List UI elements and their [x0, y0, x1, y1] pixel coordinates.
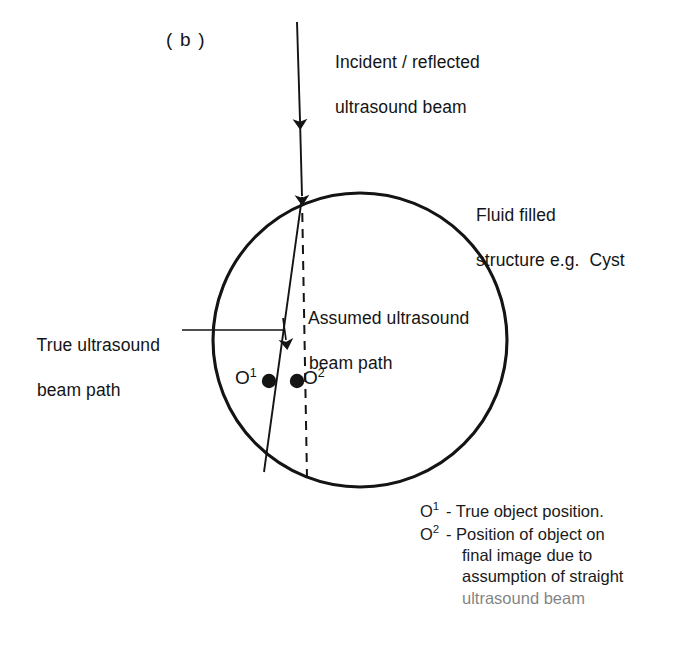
legend-item-o1: O1- True object position. — [420, 499, 623, 522]
legend-item-o2-key-base: O — [420, 524, 433, 542]
label-incident-beam: Incident / reflected ultrasound beam — [325, 29, 480, 119]
label-fluid-structure-line1: Fluid filled — [476, 205, 556, 225]
legend-item-o2-text: - Position of object on — [446, 524, 605, 542]
object-apparent-position-label: O2 — [303, 366, 325, 389]
label-fluid-structure: Fluid filled structure e.g. Cyst — [466, 182, 625, 272]
label-true-beam-path-line2: beam path — [37, 380, 121, 400]
legend-item-o2-continuation-line3: ultrasound beam — [420, 588, 623, 609]
label-assumed-beam-path-line1: Assumed ultrasound — [308, 308, 469, 328]
object-true-position-label-base: O — [235, 367, 250, 388]
panel-label: ( b ) — [166, 28, 206, 52]
legend-item-o2-key: O2 — [420, 522, 446, 545]
label-assumed-beam-path: Assumed ultrasound beam path — [299, 285, 469, 375]
label-true-beam-path-line1: True ultrasound — [37, 335, 160, 355]
true-beam-path-line — [264, 197, 302, 472]
legend-item-o2-key-superscript: 2 — [433, 523, 439, 535]
object-apparent-position-label-base: O — [303, 367, 318, 388]
legend-item-o2: O2- Position of object on — [420, 522, 623, 545]
legend: O1- True object position. O2- Position o… — [420, 499, 623, 609]
object-apparent-position-label-superscript: 2 — [318, 366, 325, 380]
legend-item-o2-continuation-line1: final image due to — [420, 545, 623, 566]
label-fluid-structure-line2: structure e.g. Cyst — [476, 250, 625, 270]
object-true-position-label-superscript: 1 — [250, 366, 257, 380]
object-true-position-dot — [262, 374, 276, 388]
label-true-beam-path: True ultrasound beam path — [27, 312, 160, 402]
label-incident-beam-line1: Incident / reflected — [335, 52, 480, 72]
legend-item-o2-continuation-line2: assumption of straight — [420, 566, 623, 587]
legend-item-o1-text: - True object position. — [446, 502, 604, 520]
legend-item-o1-key-base: O — [420, 502, 433, 520]
object-true-position-label: O1 — [235, 366, 257, 389]
label-incident-beam-line2: ultrasound beam — [335, 97, 467, 117]
incident-beam-lower-segment — [300, 120, 302, 196]
legend-item-o1-key: O1 — [420, 499, 446, 522]
incident-beam-upper-segment — [297, 22, 300, 120]
legend-item-o1-key-superscript: 1 — [433, 500, 439, 512]
